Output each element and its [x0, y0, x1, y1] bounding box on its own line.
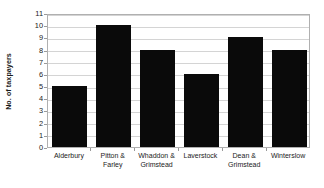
- y-axis-tick-mark: [44, 99, 47, 100]
- y-axis-tick-mark: [44, 136, 47, 137]
- x-axis-tick-label: Winterslow: [266, 151, 310, 160]
- y-axis-title: No. of taxpayers: [0, 14, 16, 148]
- bar: [140, 50, 175, 147]
- y-axis-title-text: No. of taxpayers: [4, 53, 13, 110]
- y-axis-tick-label: 11: [20, 10, 43, 18]
- bar: [228, 37, 263, 147]
- x-axis-tick-mark: [222, 148, 223, 151]
- y-axis-tick-label: 7: [20, 59, 43, 67]
- y-axis-tick-mark: [44, 148, 47, 149]
- x-axis-tick-labels: AlderburyPitton & FarleyWhaddon & Grimst…: [47, 151, 310, 188]
- y-axis-tick-mark: [44, 63, 47, 64]
- bar: [272, 50, 307, 147]
- bar: [52, 86, 87, 147]
- y-axis-tick-label: 8: [20, 47, 43, 55]
- x-axis-tick-mark: [266, 148, 267, 151]
- bars-layer: [48, 15, 309, 147]
- y-axis-tick-mark: [44, 87, 47, 88]
- y-axis-tick-mark: [44, 26, 47, 27]
- x-axis-tick-label: Whaddon & Grimstead: [135, 151, 179, 169]
- x-axis-tick-mark: [178, 148, 179, 151]
- plot-area: [47, 14, 310, 148]
- y-axis-tick-mark: [44, 14, 47, 15]
- bar: [184, 74, 219, 147]
- x-axis-tick-label: Pitton & Farley: [91, 151, 135, 169]
- x-axis-tick-mark: [134, 148, 135, 151]
- y-axis-tick-label: 10: [20, 22, 43, 30]
- x-axis-tick-mark: [90, 148, 91, 151]
- y-axis-tick-labels: 01234567891011: [20, 0, 43, 188]
- y-axis-tick-label: 5: [20, 83, 43, 91]
- y-axis-tick-label: 6: [20, 71, 43, 79]
- y-axis-tick-mark: [44, 51, 47, 52]
- y-axis-tick-label: 9: [20, 34, 43, 42]
- y-axis-tick-mark: [44, 124, 47, 125]
- y-axis-tick-label: 0: [20, 144, 43, 152]
- x-axis-tick-label: Alderbury: [47, 151, 91, 160]
- y-axis-tick-mark: [44, 38, 47, 39]
- bar: [96, 25, 131, 147]
- x-axis-tick-label: Dean & Grimstead: [222, 151, 266, 169]
- x-axis-tick-label: Laverstock: [179, 151, 223, 160]
- y-axis-tick-label: 2: [20, 120, 43, 128]
- y-axis-tick-label: 4: [20, 95, 43, 103]
- bar-chart: No. of taxpayers 01234567891011 Alderbur…: [0, 0, 324, 188]
- y-axis-tick-mark: [44, 75, 47, 76]
- y-axis-tick-label: 1: [20, 132, 43, 140]
- y-axis-tick-label: 3: [20, 107, 43, 115]
- y-axis-tick-mark: [44, 111, 47, 112]
